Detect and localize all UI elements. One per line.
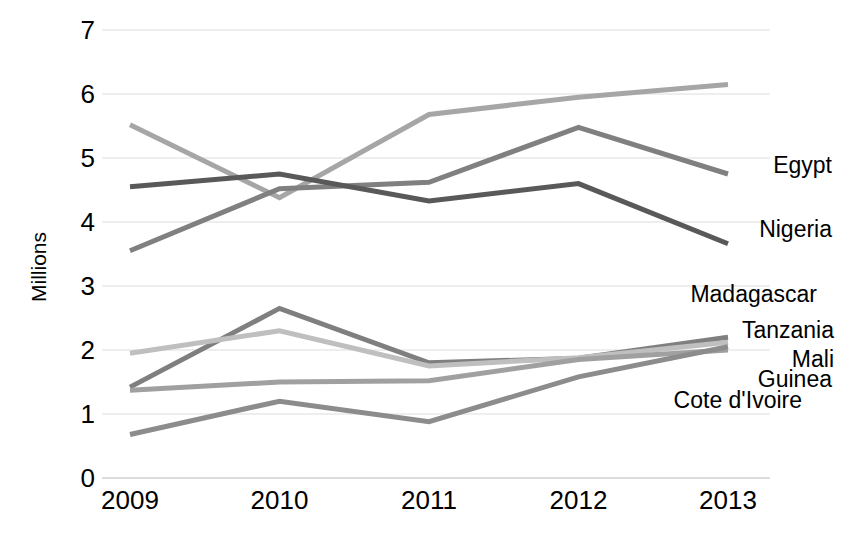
gridlines [102, 30, 770, 478]
series-label-madagascar: Madagascar [690, 281, 817, 308]
plot-area [0, 0, 842, 534]
series-label-egypt: Egypt [773, 152, 832, 179]
series-line-nigeria [130, 127, 728, 251]
series-lines [130, 84, 728, 434]
line-chart: Millions 01234567 20092010201120122013 E… [0, 0, 842, 534]
series-line-cote-d-ivoire [130, 347, 728, 435]
series-label-cote-d-ivoire: Cote d'Ivoire [674, 387, 802, 414]
series-line-guinea [130, 350, 728, 390]
series-line-tanzania [130, 308, 728, 387]
series-label-nigeria: Nigeria [759, 216, 832, 243]
series-label-tanzania: Tanzania [742, 317, 834, 344]
